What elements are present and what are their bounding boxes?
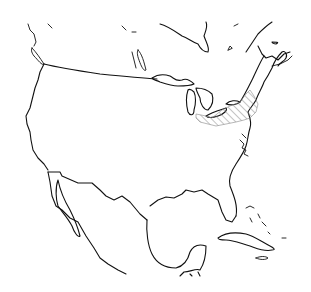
jamaica	[256, 257, 268, 260]
bc-coast	[28, 24, 52, 46]
james-bay	[160, 22, 209, 52]
bahamas	[246, 206, 286, 238]
us-atlantic-coast	[229, 51, 286, 216]
lake-michigan	[187, 89, 196, 115]
highlighted-region-hatched	[196, 90, 258, 126]
lake-superior	[152, 75, 194, 86]
north-america-outline-map	[0, 0, 311, 292]
vancouver-island	[31, 48, 44, 64]
north-islet	[234, 24, 238, 26]
lake-manitoba	[132, 52, 136, 68]
maritime-canada	[246, 22, 290, 60]
lake-winnipeg	[137, 50, 146, 70]
lake-huron	[196, 88, 213, 110]
small-lakes-north	[122, 26, 136, 32]
cuba	[218, 233, 274, 251]
us-west-coast	[26, 64, 48, 170]
akimiski-island	[228, 46, 232, 50]
us-gulf-coast	[150, 190, 236, 222]
gulf-of-mexico-coast	[147, 220, 206, 276]
us-canada-border	[44, 64, 157, 79]
